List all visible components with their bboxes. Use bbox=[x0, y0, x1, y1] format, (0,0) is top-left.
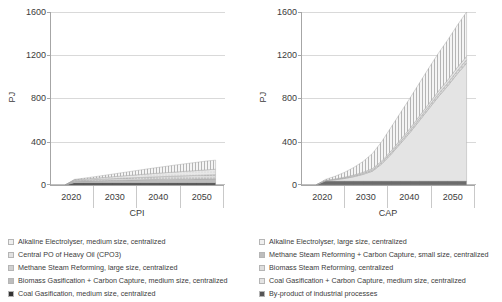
y-tick-800-cpi: 800 bbox=[12, 93, 46, 103]
y-tick-400-cap: 400 bbox=[263, 137, 297, 147]
legend-label: Coal Gasification, medium size, centrali… bbox=[18, 288, 155, 299]
x-tick-2040-cap: 2040 bbox=[388, 186, 432, 208]
y-axis-ticks-cpi: 1600 1200 800 400 0 bbox=[8, 0, 46, 228]
legend-swatch-icon bbox=[8, 291, 14, 297]
x-tick-2020-cap: 2020 bbox=[301, 186, 345, 208]
legend-label: Alkaline Electrolyser, medium size, cent… bbox=[18, 236, 165, 247]
legend-label: By-product of industrial processes bbox=[269, 288, 377, 299]
y-tick-1200-cap: 1200 bbox=[263, 50, 297, 60]
legend-item[interactable]: Coal Gasification, medium size, centrali… bbox=[8, 288, 251, 299]
legend-swatch-icon bbox=[8, 265, 14, 271]
y-tick-1600-cap: 1600 bbox=[263, 7, 297, 17]
x-axis-title-cap: CAP bbox=[301, 208, 475, 218]
legend-label: Biomass Steam Reforming, centralized bbox=[269, 262, 393, 273]
legend-swatch-icon bbox=[8, 278, 14, 284]
x-tick-2020-cpi: 2020 bbox=[50, 186, 94, 208]
series-areas-cpi bbox=[51, 12, 225, 185]
panel-cpi: PJ 1600 1200 800 400 0 bbox=[0, 0, 251, 228]
legend-cpi: Alkaline Electrolyser, medium size, cent… bbox=[0, 236, 251, 302]
legend-swatch-icon bbox=[259, 252, 265, 258]
legend-item[interactable]: Alkaline Electrolyser, medium size, cent… bbox=[8, 236, 251, 247]
legend-swatch-icon bbox=[259, 291, 265, 297]
chart-legends: Alkaline Electrolyser, medium size, cent… bbox=[0, 228, 502, 302]
legend-item[interactable]: Alkaline Electrolyser, large size, centr… bbox=[259, 236, 502, 247]
legend-item[interactable]: Biomass Gasification + Carbon Capture, m… bbox=[8, 275, 251, 286]
legend-swatch-icon bbox=[8, 239, 14, 245]
legend-item[interactable]: Biomass Steam Reforming, centralized bbox=[259, 262, 502, 273]
legend-item[interactable]: Methane Steam Reforming, large size, cen… bbox=[8, 262, 251, 273]
x-tick-2030-cap: 2030 bbox=[345, 186, 389, 208]
x-tick-2040-cpi: 2040 bbox=[137, 186, 181, 208]
x-tick-2050-cap: 2050 bbox=[432, 186, 476, 208]
legend-swatch-icon bbox=[259, 239, 265, 245]
x-axis-title-cpi: CPI bbox=[50, 208, 224, 218]
x-tick-2030-cpi: 2030 bbox=[94, 186, 138, 208]
chart-panels: PJ 1600 1200 800 400 0 bbox=[0, 0, 502, 228]
x-tick-2050-cpi: 2050 bbox=[181, 186, 225, 208]
x-axis-ticks-cap: 2020 2030 2040 2050 bbox=[301, 185, 475, 207]
legend-label: Methane Steam Reforming, large size, cen… bbox=[18, 262, 177, 273]
stacked-area-chart-figure: PJ 1600 1200 800 400 0 bbox=[0, 0, 502, 302]
legend-label: Alkaline Electrolyser, large size, centr… bbox=[269, 236, 407, 247]
legend-item[interactable]: By-product of industrial processes bbox=[259, 288, 502, 299]
series-areas-cap bbox=[302, 12, 476, 185]
y-tick-1600-cpi: 1600 bbox=[12, 7, 46, 17]
legend-swatch-icon bbox=[8, 252, 14, 258]
legend-swatch-icon bbox=[259, 265, 265, 271]
y-tick-800-cap: 800 bbox=[263, 93, 297, 103]
legend-label: Methane Steam Reforming + Carbon Capture… bbox=[269, 249, 489, 260]
legend-swatch-icon bbox=[259, 278, 265, 284]
legend-cap: Alkaline Electrolyser, large size, centr… bbox=[251, 236, 502, 302]
y-axis-ticks-cap: 1600 1200 800 400 0 bbox=[259, 0, 297, 228]
x-axis-ticks-cpi: 2020 2030 2040 2050 bbox=[50, 185, 224, 207]
legend-label: Coal Gasification + Carbon Capture, medi… bbox=[269, 275, 466, 286]
y-tick-400-cpi: 400 bbox=[12, 137, 46, 147]
y-tick-0-cap: 0 bbox=[263, 180, 297, 190]
y-tick-1200-cpi: 1200 bbox=[12, 50, 46, 60]
plot-area-cap bbox=[301, 12, 475, 185]
y-tick-0-cpi: 0 bbox=[12, 180, 46, 190]
panel-cap: PJ 1600 1200 800 400 0 bbox=[251, 0, 502, 228]
legend-item[interactable]: Methane Steam Reforming + Carbon Capture… bbox=[259, 249, 502, 260]
legend-label: Central PO of Heavy Oil (CPO3) bbox=[18, 249, 121, 260]
legend-item[interactable]: Central PO of Heavy Oil (CPO3) bbox=[8, 249, 251, 260]
legend-item[interactable]: Coal Gasification + Carbon Capture, medi… bbox=[259, 275, 502, 286]
plot-area-cpi bbox=[50, 12, 224, 185]
legend-label: Biomass Gasification + Carbon Capture, m… bbox=[18, 275, 228, 286]
